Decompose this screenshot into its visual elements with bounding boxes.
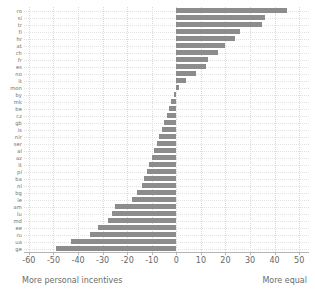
bar-row xyxy=(24,155,309,159)
category-label-is: is xyxy=(18,127,22,133)
bar-row xyxy=(24,197,309,201)
bar-row xyxy=(24,232,309,236)
bar-row xyxy=(24,127,309,131)
bar-row xyxy=(24,134,309,138)
bar-row xyxy=(24,120,309,124)
category-label-nl: nl xyxy=(17,183,22,189)
bar-am xyxy=(115,204,176,208)
bar-ie xyxy=(132,197,176,201)
bar-row xyxy=(24,148,309,152)
category-label-bg: bg xyxy=(15,190,22,196)
category-label-mon: mon xyxy=(10,85,22,91)
bar-nir xyxy=(159,134,176,138)
x-tick-mark xyxy=(275,252,276,255)
x-tick-label: -30 xyxy=(96,256,109,265)
x-tick-mark xyxy=(29,252,30,255)
bar-pl xyxy=(147,169,176,173)
bar-ro xyxy=(176,8,287,12)
bar-es xyxy=(176,64,205,68)
x-tick-label: -50 xyxy=(47,256,60,265)
x-tick-mark xyxy=(250,252,251,255)
category-label-ge: ge xyxy=(15,246,22,252)
x-tick-mark xyxy=(103,252,104,255)
bar-si xyxy=(176,15,264,19)
bar-row xyxy=(24,85,309,89)
category-label-si: si xyxy=(18,15,22,21)
x-tick-label: 30 xyxy=(245,256,255,265)
bar-row xyxy=(24,169,309,173)
category-label-ch: ch xyxy=(16,50,22,56)
bar-row xyxy=(24,183,309,187)
bar-row xyxy=(24,225,309,229)
plot-area xyxy=(24,7,309,252)
x-tick-mark xyxy=(176,252,177,255)
category-label-gb: gb xyxy=(15,120,22,126)
category-label-fi: fi xyxy=(19,29,22,35)
category-label-ie: ie xyxy=(17,197,22,203)
bar-lt xyxy=(149,162,176,166)
x-axis-line xyxy=(24,252,309,253)
bar-row xyxy=(24,162,309,166)
x-tick-mark xyxy=(78,252,79,255)
x-tick-label: 20 xyxy=(220,256,230,265)
bar-no xyxy=(176,71,196,75)
bar-gb xyxy=(164,120,176,124)
bar-ch xyxy=(176,50,218,54)
category-label-fr: fr xyxy=(18,57,22,63)
category-label-es: es xyxy=(16,64,22,70)
x-tick-label: -60 xyxy=(22,256,35,265)
bar-bg xyxy=(137,190,176,194)
bar-row xyxy=(24,176,309,180)
category-label-md: md xyxy=(13,218,22,224)
category-label-ro: ro xyxy=(17,8,22,14)
category-label-nir: nir xyxy=(15,134,22,140)
category-label-pl: pl xyxy=(17,169,22,175)
bar-ru xyxy=(90,232,176,236)
category-label-no: no xyxy=(15,71,22,77)
bar-row xyxy=(24,78,309,82)
bar-ua xyxy=(71,239,177,243)
category-label-it: it xyxy=(18,78,22,84)
category-label-ba: ba xyxy=(15,176,22,182)
category-label-at: at xyxy=(17,43,22,49)
bar-ba xyxy=(144,176,176,180)
category-label-ee: ee xyxy=(15,225,22,231)
bar-lu xyxy=(112,211,176,215)
bar-row xyxy=(24,22,309,26)
x-tick-mark xyxy=(201,252,202,255)
bar-row xyxy=(24,239,309,243)
bar-row xyxy=(24,15,309,19)
bar-fr xyxy=(176,57,208,61)
category-label-lt: lt xyxy=(18,162,22,168)
axis-caption-right: More equal xyxy=(262,276,307,285)
bar-ge xyxy=(56,246,176,250)
category-label-lu: lu xyxy=(17,211,22,217)
bar-az xyxy=(152,155,177,159)
bar-al xyxy=(154,148,176,152)
bar-row xyxy=(24,57,309,61)
bar-row xyxy=(24,92,309,96)
x-tick-label: -20 xyxy=(121,256,134,265)
bar-row xyxy=(24,71,309,75)
bar-mon xyxy=(176,85,178,89)
category-label-az: az xyxy=(16,155,22,161)
category-label-ua: ua xyxy=(15,239,22,245)
category-label-ser: ser xyxy=(14,141,22,147)
bar-row xyxy=(24,246,309,250)
bar-row xyxy=(24,218,309,222)
x-tick-label: 10 xyxy=(196,256,206,265)
bar-row xyxy=(24,106,309,110)
bar-row xyxy=(24,29,309,33)
bar-ee xyxy=(98,225,177,229)
bar-tr xyxy=(176,22,262,26)
category-label-tr: tr xyxy=(18,22,22,28)
bar-row xyxy=(24,211,309,215)
bar-is xyxy=(162,127,177,131)
bar-by xyxy=(174,92,176,96)
category-label-al: al xyxy=(17,148,22,154)
x-tick-mark xyxy=(152,252,153,255)
bar-row xyxy=(24,36,309,40)
bar-row xyxy=(24,141,309,145)
x-tick-label: 0 xyxy=(174,256,179,265)
bar-chart: More personal incentives More equal rosi… xyxy=(0,0,315,303)
